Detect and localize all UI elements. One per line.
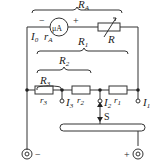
- terminal-i1: [136, 99, 140, 103]
- label-switch-s: S: [104, 111, 110, 122]
- label-plus-top: +: [73, 15, 79, 26]
- label-minus-bottom: −: [35, 149, 41, 160]
- brace-ra: [32, 7, 122, 13]
- resistor-r2-icon: [72, 86, 90, 94]
- multirange-ammeter-circuit-diagram: RA − + μA I0 rA R R1 R2 R3 r3 r2 r1 I3 I…: [0, 0, 158, 165]
- circuit-svg: RA − + μA I0 rA R R1 R2 R3 r3 r2 r1 I3 I…: [0, 0, 158, 165]
- selector-bar: [60, 124, 145, 131]
- label-i2: I2: [103, 96, 112, 110]
- label-meter: μA: [52, 24, 62, 33]
- label-i3: I3: [65, 96, 74, 110]
- label-i1: I1: [142, 96, 150, 110]
- resistor-r1-icon: [109, 86, 127, 94]
- label-r1: R1: [77, 35, 88, 49]
- terminal-plus: [133, 149, 143, 159]
- terminal-i3: [60, 99, 64, 103]
- label-minus-top: −: [39, 15, 45, 26]
- label-r1-small: r1: [114, 95, 121, 107]
- label-plus-bottom: +: [124, 149, 130, 160]
- label-r3: R3: [39, 74, 51, 88]
- label-r2-small: r2: [77, 95, 85, 107]
- label-i0: I0: [30, 30, 39, 44]
- label-r-variable: R: [107, 33, 115, 45]
- label-r2: R2: [58, 54, 70, 68]
- brace-r1: [37, 48, 128, 54]
- terminal-minus: [22, 149, 32, 159]
- label-r3-small: r3: [40, 95, 48, 107]
- brace-r2: [37, 67, 91, 73]
